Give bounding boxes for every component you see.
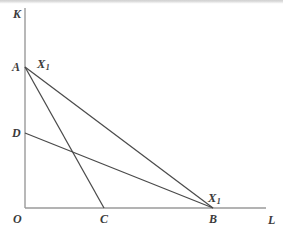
isoquant-label-top-subscript: 1 (46, 63, 50, 72)
point-label-d: D (12, 127, 21, 139)
line-D-B (25, 133, 213, 208)
isoquant-label-bottom-text: X (208, 191, 216, 205)
isoquant-label-top-text: X (37, 57, 45, 71)
diagram-canvas: K L O A D C B X1 X1 (0, 0, 283, 236)
origin-label: O (13, 213, 22, 225)
plot-graphics (0, 0, 283, 236)
isoquant-label-bottom-subscript: 1 (217, 197, 221, 206)
point-label-b: B (209, 213, 217, 225)
point-label-a: A (12, 61, 20, 73)
point-label-c: C (100, 213, 108, 225)
capital-axis-label: K (13, 8, 21, 20)
isoquant-label-bottom: X1 (208, 192, 220, 205)
line-A-B (25, 67, 213, 208)
isoquant-label-top: X1 (37, 58, 49, 71)
labour-axis-label: L (268, 214, 275, 226)
